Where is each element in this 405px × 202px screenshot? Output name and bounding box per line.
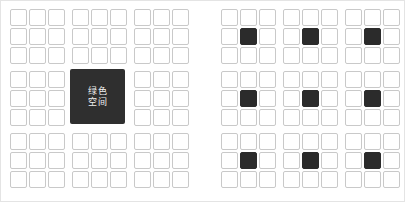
grid-cell xyxy=(91,9,108,26)
grid-cell xyxy=(48,9,65,26)
grid-cell xyxy=(134,133,151,150)
grid-cell xyxy=(321,109,338,126)
grid-cell xyxy=(153,133,170,150)
right-panel xyxy=(221,9,400,188)
grid-cell xyxy=(172,28,189,45)
grid-cell xyxy=(240,71,257,88)
grid-cell xyxy=(259,71,276,88)
grid-block-1-0 xyxy=(221,71,276,126)
grid-cell xyxy=(29,171,46,188)
grid-cell xyxy=(29,152,46,169)
grid-cell xyxy=(110,28,127,45)
grid-cell xyxy=(345,47,362,64)
grid-cell xyxy=(153,47,170,64)
grid-cell xyxy=(72,9,89,26)
grid-cell xyxy=(91,47,108,64)
grid-block-0-0 xyxy=(221,9,276,64)
green-space-label-line-0: 绿色 xyxy=(88,86,107,96)
grid-cell xyxy=(153,28,170,45)
grid-cell xyxy=(172,171,189,188)
grid-cell xyxy=(153,109,170,126)
grid-cell xyxy=(283,90,300,107)
grid-cell xyxy=(364,109,381,126)
grid-cell xyxy=(321,28,338,45)
grid-cell xyxy=(72,152,89,169)
grid-cell xyxy=(172,109,189,126)
grid-cell xyxy=(259,133,276,150)
grid-cell xyxy=(110,47,127,64)
grid-cell xyxy=(10,47,27,64)
grid-cell xyxy=(72,171,89,188)
grid-cell xyxy=(240,47,257,64)
green-space-cell xyxy=(302,152,319,169)
grid-cell xyxy=(240,171,257,188)
grid-cell xyxy=(321,90,338,107)
green-space-cell xyxy=(240,90,257,107)
grid-cell xyxy=(383,152,400,169)
grid-cell xyxy=(364,47,381,64)
grid-block-2-2 xyxy=(134,133,189,188)
green-space-block: 绿色空间 xyxy=(70,69,125,124)
grid-cell xyxy=(345,28,362,45)
grid-cell xyxy=(383,133,400,150)
green-space-cell xyxy=(364,90,381,107)
grid-block-1-2 xyxy=(134,71,189,126)
diagram-canvas: 绿色空间 xyxy=(0,0,405,202)
grid-cell xyxy=(134,90,151,107)
grid-cell xyxy=(364,171,381,188)
grid-cell xyxy=(10,152,27,169)
grid-cell xyxy=(10,171,27,188)
grid-cell xyxy=(364,9,381,26)
grid-cell xyxy=(10,28,27,45)
green-space-cell xyxy=(364,152,381,169)
grid-cell xyxy=(172,9,189,26)
grid-cell xyxy=(383,9,400,26)
grid-cell xyxy=(48,152,65,169)
grid-cell xyxy=(48,109,65,126)
grid-block-0-1 xyxy=(283,9,338,64)
grid-cell xyxy=(321,152,338,169)
grid-cell xyxy=(221,152,238,169)
grid-cell xyxy=(29,47,46,64)
grid-cell xyxy=(29,9,46,26)
grid-cell xyxy=(321,133,338,150)
grid-block-2-2 xyxy=(345,133,400,188)
grid-cell xyxy=(48,133,65,150)
grid-cell xyxy=(134,109,151,126)
grid-block-1-1: 绿色空间 xyxy=(72,71,127,126)
grid-cell xyxy=(134,47,151,64)
grid-cell xyxy=(110,171,127,188)
grid-cell xyxy=(29,28,46,45)
green-space-cell xyxy=(302,28,319,45)
grid-cell xyxy=(259,47,276,64)
left-panel-grid: 绿色空间 xyxy=(10,9,189,188)
grid-cell xyxy=(172,133,189,150)
grid-cell xyxy=(345,90,362,107)
grid-block-2-1 xyxy=(283,133,338,188)
grid-cell xyxy=(302,47,319,64)
grid-cell xyxy=(48,28,65,45)
grid-cell xyxy=(283,152,300,169)
grid-cell xyxy=(240,9,257,26)
grid-cell xyxy=(283,47,300,64)
grid-cell xyxy=(302,171,319,188)
grid-cell xyxy=(283,171,300,188)
grid-cell xyxy=(221,133,238,150)
grid-cell xyxy=(364,71,381,88)
grid-cell xyxy=(29,90,46,107)
grid-block-2-0 xyxy=(221,133,276,188)
grid-cell xyxy=(153,90,170,107)
grid-cell xyxy=(91,152,108,169)
green-space-cell xyxy=(240,28,257,45)
grid-cell xyxy=(345,71,362,88)
grid-cell xyxy=(221,171,238,188)
left-panel: 绿色空间 xyxy=(10,9,189,188)
grid-cell xyxy=(153,9,170,26)
green-space-cell xyxy=(302,90,319,107)
grid-cell xyxy=(48,47,65,64)
grid-cell xyxy=(283,71,300,88)
grid-block-0-2 xyxy=(134,9,189,64)
grid-cell xyxy=(283,28,300,45)
green-space-cell xyxy=(240,152,257,169)
grid-cell xyxy=(48,71,65,88)
